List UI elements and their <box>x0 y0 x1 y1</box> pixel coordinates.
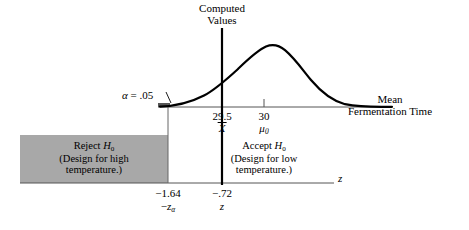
z-tick-label-neg-1-64: −1.64 <box>155 187 180 199</box>
computed-values-line-1: Computed <box>199 2 245 14</box>
alpha-symbol: α <box>122 89 128 101</box>
accept-caption-line-2: (Design for low <box>231 153 298 165</box>
reject-caption-line-1: Reject H0 <box>59 140 128 153</box>
reject-caption-line-2: (Design for high <box>59 153 128 165</box>
accept-caption-line-1: Accept H0 <box>231 140 298 153</box>
reject-caption-line-3: temperature.) <box>59 164 128 176</box>
alpha-leader-line <box>166 92 171 103</box>
alpha-level-label: α = .05 <box>122 89 153 101</box>
computed-values-line-2: Values <box>199 14 245 26</box>
sample-mean-symbol: X <box>218 122 227 135</box>
accept-region-caption: Accept H0 (Design for low temperature.) <box>231 140 298 176</box>
z-axis-title: z <box>338 172 342 184</box>
critical-z-symbol: −zα <box>161 200 175 214</box>
mu-glyph: μ0 <box>259 122 268 134</box>
mean-axis-title-line-2: Fermentation Time <box>348 105 432 117</box>
mean-tick-label-30: 30 <box>259 110 270 122</box>
mean-axis-title: Mean Fermentation Time <box>348 93 432 118</box>
neg-z-alpha-glyph: −zα <box>161 200 175 212</box>
accept-caption-line-3: temperature.) <box>231 164 298 176</box>
population-mean-symbol: μ0 <box>259 122 268 136</box>
mean-tick-label-29-5: 29.5 <box>212 110 231 122</box>
x-bar-glyph: X <box>218 122 227 135</box>
mean-axis-title-line-1: Mean <box>348 93 432 105</box>
test-statistic-symbol: z <box>220 200 224 212</box>
reject-region-caption: Reject H0 (Design for high temperature.) <box>59 140 128 176</box>
computed-values-caption: Computed Values <box>199 2 245 27</box>
z-tick-label-neg-0-72: −.72 <box>212 187 232 199</box>
hypothesis-test-figure: Computed Values α = .05 Mean Fermentatio… <box>0 0 469 230</box>
alpha-value: = .05 <box>131 89 154 101</box>
